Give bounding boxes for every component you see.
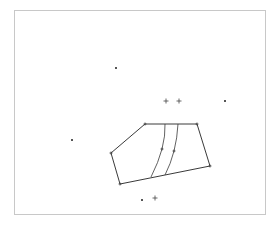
point-marker-icon: [71, 139, 73, 141]
plot-frame: [15, 11, 266, 215]
point-marker-icon: [141, 199, 143, 201]
curve-line: [151, 124, 165, 177]
point-marker-icon: [115, 67, 117, 69]
point-marker-icon: [224, 100, 226, 102]
diagram-canvas: [0, 0, 277, 230]
plus-markers: [153, 99, 182, 201]
curve-line: [165, 124, 178, 175]
scatter-points: [71, 67, 226, 201]
